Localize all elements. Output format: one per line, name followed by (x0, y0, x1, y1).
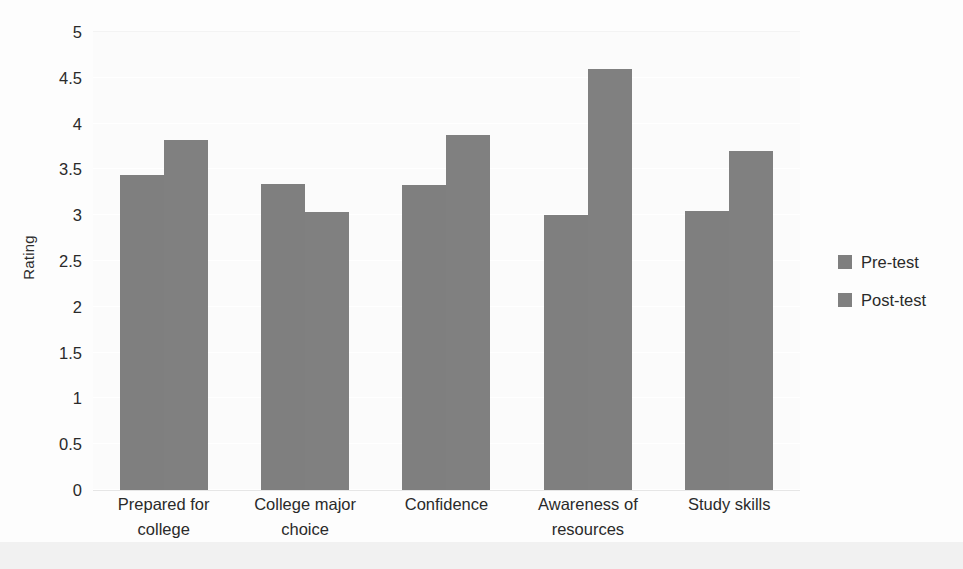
y-axis-tick-label: 0.5 (59, 435, 82, 454)
y-axis-ticks: 00.511.522.533.544.55 (44, 32, 88, 490)
bar (729, 151, 773, 490)
bar-group (517, 32, 658, 490)
chart-figure: 00.511.522.533.544.55 Rating Prepared fo… (0, 0, 963, 569)
x-axis-tick-label: Confidence (376, 492, 517, 517)
y-axis-title: Rating (8, 222, 48, 292)
y-axis-tick-label: 4 (73, 114, 82, 133)
bar-group (93, 32, 234, 490)
x-axis-tick-label: College major choice (234, 492, 375, 542)
legend-swatch-icon (838, 293, 852, 307)
x-axis-tick-label: Study skills (659, 492, 800, 517)
y-axis-tick-label: 1 (73, 389, 82, 408)
y-axis-tick-label: 3 (73, 206, 82, 225)
bar (685, 211, 729, 490)
x-axis-ticks: Prepared for collegeCollege major choice… (93, 492, 800, 544)
bar-group (234, 32, 375, 490)
chart-legend: Pre-testPost-test (838, 243, 958, 319)
x-axis-tick-label: Prepared for college (93, 492, 234, 542)
legend-item[interactable]: Post-test (838, 281, 958, 319)
bar (402, 185, 446, 490)
bar (588, 69, 632, 490)
bar (544, 215, 588, 490)
bar (446, 135, 490, 490)
bar (261, 184, 305, 490)
y-axis-tick-label: 1.5 (59, 343, 82, 362)
legend-item-label: Post-test (861, 291, 926, 310)
plot-area (93, 32, 800, 490)
y-axis-tick-label: 2.5 (59, 252, 82, 271)
y-axis-tick-label: 5 (73, 23, 82, 42)
legend-item-label: Pre-test (861, 253, 919, 272)
bar (120, 175, 164, 490)
bar (164, 140, 208, 490)
bar-group (376, 32, 517, 490)
bar-group (659, 32, 800, 490)
legend-item[interactable]: Pre-test (838, 243, 958, 281)
bar (305, 212, 349, 490)
y-axis-tick-label: 4.5 (59, 68, 82, 87)
legend-swatch-icon (838, 255, 852, 269)
y-axis-tick-label: 2 (73, 297, 82, 316)
x-axis-tick-label: Awareness of resources (517, 492, 658, 542)
y-axis-tick-label: 3.5 (59, 160, 82, 179)
x-axis-line (93, 490, 800, 491)
y-axis-title-text: Rating (20, 235, 37, 280)
y-axis-tick-label: 0 (73, 481, 82, 500)
bottom-band (0, 542, 963, 569)
